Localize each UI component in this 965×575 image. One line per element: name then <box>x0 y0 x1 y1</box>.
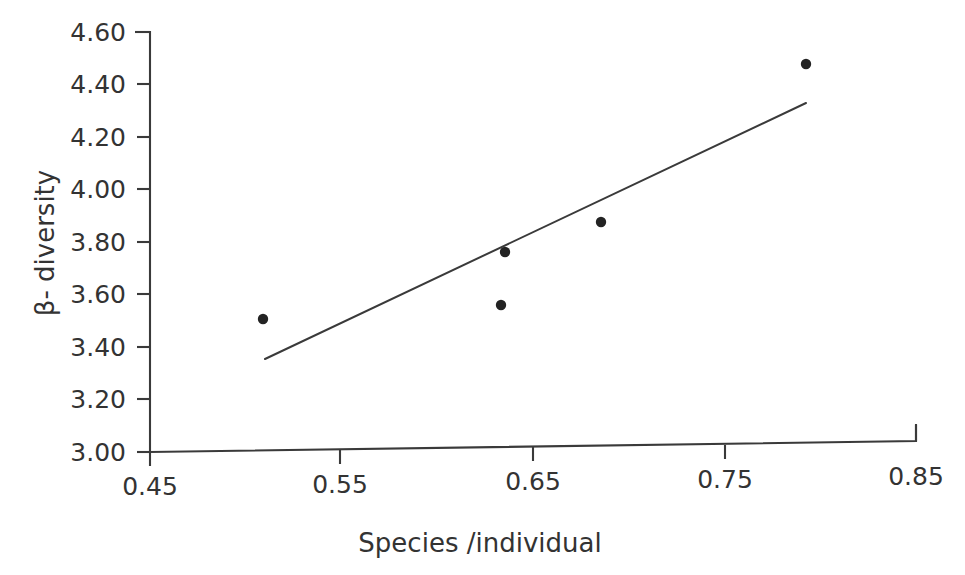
y-axis-title: β- diversity <box>30 170 60 316</box>
y-axis-tick-label-3-40: 3.40 <box>70 333 126 362</box>
scatter-chart-figure: 4.60 4.40 4.20 4.00 3.80 3.60 3.40 3.20 … <box>0 0 965 575</box>
x-axis-title: Species /individual <box>358 528 601 558</box>
y-axis-tick-label-3-60: 3.60 <box>70 280 126 309</box>
y-axis-tick-label-4-20: 4.20 <box>70 123 126 152</box>
x-axis-tick-label-0-55: 0.55 <box>312 470 368 499</box>
y-axis-tick-label-3-20: 3.20 <box>70 385 126 414</box>
data-point <box>596 217 606 227</box>
data-point <box>258 314 268 324</box>
x-axis-tick-label-0-75: 0.75 <box>697 465 753 494</box>
y-axis-tick-label-4-40: 4.40 <box>70 70 126 99</box>
y-axis-tick-label-3-00: 3.00 <box>70 438 126 467</box>
data-point <box>496 300 506 310</box>
data-point <box>500 247 510 257</box>
data-series-group <box>258 59 811 359</box>
chart-canvas: 4.60 4.40 4.20 4.00 3.80 3.60 3.40 3.20 … <box>0 0 965 575</box>
data-point <box>801 59 811 69</box>
x-axis-tick-label-0-45: 0.45 <box>122 472 178 501</box>
x-axis-group: 0.45 0.55 0.65 0.75 0.85 <box>122 425 944 501</box>
y-axis-tick-label-3-80: 3.80 <box>70 228 126 257</box>
y-axis-tick-label-4-60: 4.60 <box>70 18 126 47</box>
y-axis-tick-label-4-00: 4.00 <box>70 175 126 204</box>
regression-trend-line <box>265 103 806 359</box>
x-axis-tick-label-0-85: 0.85 <box>888 462 944 491</box>
y-axis-group: 4.60 4.40 4.20 4.00 3.80 3.60 3.40 3.20 … <box>70 18 150 467</box>
x-axis-tick-label-0-65: 0.65 <box>505 467 561 496</box>
